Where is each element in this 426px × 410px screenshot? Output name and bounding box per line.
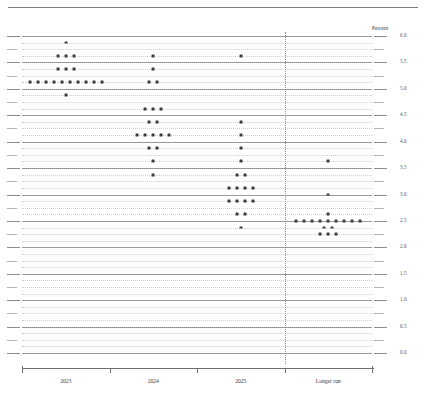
dot-marker (76, 81, 79, 84)
gridline-minor (22, 82, 372, 83)
gridline-minor (22, 287, 372, 288)
y-tick-minor-right (374, 49, 384, 50)
gridline-major (22, 353, 372, 354)
gridline-major (22, 274, 372, 275)
y-tick-minor-left (7, 102, 17, 103)
gridline-major (22, 62, 372, 63)
dot-marker (152, 173, 155, 176)
gridline-minor (22, 267, 372, 268)
gridline-minor (22, 333, 372, 334)
dot-marker (303, 219, 306, 222)
y-tick-right (374, 327, 387, 328)
y-tick-label: 5.0 (400, 86, 407, 91)
dot-marker (327, 213, 330, 216)
dot-marker (152, 107, 155, 110)
gridline-minor (22, 208, 372, 209)
plot-area: 6.05.55.04.54.03.53.02.52.01.51.00.50.0 (22, 36, 372, 353)
dot-marker (64, 68, 67, 71)
y-tick-minor-left (7, 49, 17, 50)
gridline-minor (22, 76, 372, 77)
dot-marker (227, 200, 230, 203)
y-tick-right (374, 247, 387, 248)
dot-marker (311, 219, 314, 222)
dot-marker (152, 160, 155, 163)
gridline-minor (22, 241, 372, 242)
y-tick-right (374, 274, 387, 275)
y-tick-minor-right (374, 287, 384, 288)
y-tick-left (7, 115, 20, 116)
dot-marker (156, 147, 159, 150)
dot-marker (136, 134, 139, 137)
y-tick-right (374, 36, 387, 37)
dot-marker (156, 120, 159, 123)
x-axis-label-2023: 2023 (60, 378, 71, 385)
gridline-major (22, 142, 372, 143)
dot-marker (148, 81, 151, 84)
dot-marker (319, 233, 322, 236)
gridline-minor (22, 155, 372, 156)
dot-marker (56, 68, 59, 71)
gridline-major (22, 195, 372, 196)
gridline-minor (22, 175, 372, 176)
dot-marker (148, 120, 151, 123)
y-tick-left (7, 247, 20, 248)
gridline-minor (22, 261, 372, 262)
dot-marker (235, 186, 238, 189)
y-tick-left (7, 36, 20, 37)
dot-marker (100, 81, 103, 84)
gridline-minor (22, 109, 372, 110)
y-tick-left (7, 89, 20, 90)
dot-marker (36, 81, 39, 84)
y-tick-label: 0.0 (400, 350, 407, 355)
y-tick-minor-right (374, 181, 384, 182)
gridline-major (22, 168, 372, 169)
y-tick-minor-right (374, 261, 384, 262)
gridline-minor (22, 43, 372, 44)
dot-marker (239, 147, 242, 150)
dot-marker (160, 134, 163, 137)
y-tick-minor-right (374, 234, 384, 235)
dot-marker (152, 54, 155, 57)
dot-marker (60, 81, 63, 84)
dot-marker (239, 54, 242, 57)
y-tick-minor-left (7, 208, 17, 209)
dot-marker (243, 213, 246, 216)
y-tick-minor-right (374, 155, 384, 156)
dot-marker (335, 219, 338, 222)
gridline-minor (22, 181, 372, 182)
dot-marker (64, 41, 67, 44)
dot-marker (239, 226, 242, 229)
y-tick-right (374, 115, 387, 116)
gridline-minor (22, 228, 372, 229)
y-tick-label: 1.5 (400, 271, 407, 276)
header-rule (8, 7, 418, 8)
y-tick-minor-left (7, 128, 17, 129)
dot-marker (92, 81, 95, 84)
y-tick-label: 5.5 (400, 60, 407, 65)
dot-marker (156, 81, 159, 84)
gridline-minor (22, 254, 372, 255)
gridline-major (22, 115, 372, 116)
y-tick-left (7, 300, 20, 301)
y-tick-right (374, 353, 387, 354)
y-tick-left (7, 274, 20, 275)
y-tick-label: 3.0 (400, 192, 407, 197)
y-tick-label: 4.0 (400, 139, 407, 144)
gridline-minor (22, 122, 372, 123)
dot-marker (351, 219, 354, 222)
gridline-major (22, 36, 372, 37)
y-tick-label: 0.5 (400, 324, 407, 329)
dot-marker (152, 68, 155, 71)
dot-marker (64, 54, 67, 57)
x-axis-line (22, 368, 374, 369)
y-tick-minor-right (374, 208, 384, 209)
dot-marker (148, 147, 151, 150)
gridline-minor (22, 313, 372, 314)
x-axis-tick (285, 368, 286, 373)
dot-marker (227, 186, 230, 189)
gridline-major (22, 327, 372, 328)
dot-marker (152, 134, 155, 137)
gridline-minor (22, 49, 372, 50)
dot-marker (331, 226, 334, 229)
dot-marker (44, 81, 47, 84)
